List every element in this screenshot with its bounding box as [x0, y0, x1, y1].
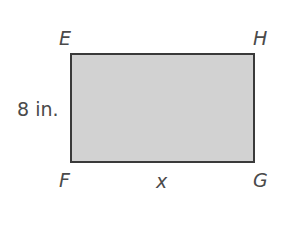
side-length-label-ef: 8 in.	[17, 100, 59, 119]
rectangle-efgh	[70, 53, 255, 163]
vertex-label-g: G	[253, 171, 268, 190]
vertex-label-e: E	[59, 29, 71, 48]
vertex-label-f: F	[59, 171, 70, 190]
vertex-label-h: H	[253, 29, 267, 48]
side-length-label-fg: x	[156, 172, 167, 191]
